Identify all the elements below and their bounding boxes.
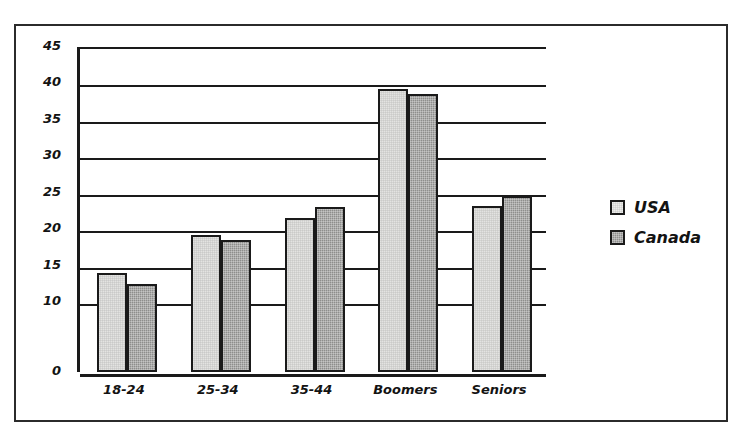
gridline — [80, 195, 546, 197]
y-axis-tick-label: 35 — [43, 111, 61, 126]
plot-area — [77, 47, 546, 372]
bar-canada-35-44 — [315, 207, 345, 372]
chart-legend: USACanada — [610, 192, 701, 252]
legend-swatch-usa-icon — [610, 200, 625, 215]
x-axis-tick-label: 25-34 — [171, 382, 265, 397]
legend-label: Canada — [634, 228, 701, 247]
bar-usa-boomers — [378, 89, 408, 372]
bar-canada-seniors — [502, 196, 532, 372]
gridline — [80, 374, 546, 377]
legend-swatch-canada-icon — [610, 230, 625, 245]
bar-canada-25-34 — [221, 240, 251, 372]
bar-canada-boomers — [408, 94, 438, 372]
bar-usa-35-44 — [285, 218, 315, 372]
gridline — [80, 85, 546, 87]
legend-item-canada[interactable]: Canada — [610, 222, 701, 252]
y-axis-tick-label: 45 — [43, 38, 61, 53]
y-axis-tick-label: 15 — [43, 257, 61, 272]
gridline — [80, 122, 546, 124]
y-axis-tick-label: 40 — [43, 74, 61, 89]
bar-chart-figure: 45403530252015100 18-2425-3435-44Boomers… — [0, 0, 747, 442]
bar-usa-18-24 — [97, 273, 127, 372]
y-axis-tick-label: 20 — [43, 220, 61, 235]
x-axis-tick-label: 18-24 — [77, 382, 171, 397]
y-axis-tick-label: 25 — [43, 184, 61, 199]
bar-canada-18-24 — [127, 284, 157, 372]
legend-item-usa[interactable]: USA — [610, 192, 701, 222]
x-axis-tick-label: Boomers — [358, 382, 452, 397]
legend-label: USA — [634, 198, 671, 217]
bar-usa-25-34 — [191, 235, 221, 372]
x-axis: 18-2425-3435-44BoomersSeniors — [77, 382, 546, 408]
x-axis-tick-label: 35-44 — [265, 382, 359, 397]
y-axis-tick-label: 30 — [43, 147, 61, 162]
y-axis: 45403530252015100 — [0, 0, 70, 442]
y-axis-tick-label: 0 — [52, 363, 61, 378]
x-axis-tick-label: Seniors — [452, 382, 546, 397]
gridline — [80, 158, 546, 160]
y-axis-tick-label: 10 — [43, 293, 61, 308]
bar-usa-seniors — [472, 206, 502, 372]
